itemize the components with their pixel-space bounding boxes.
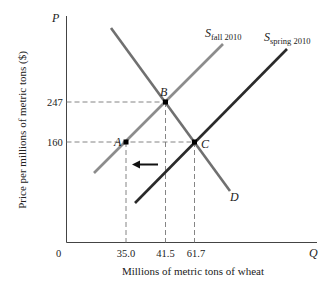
origin-label: 0 (56, 248, 61, 259)
supply-spring-2010-label-sub: spring 2010 (270, 36, 310, 46)
curves (94, 28, 287, 203)
point-b-label: B (160, 85, 168, 99)
point-a-label: A (113, 135, 122, 149)
arrow-left-icon (132, 161, 140, 169)
supply-fall-2010-label: Sfall 2010 (205, 26, 241, 42)
point-c-label: C (201, 137, 210, 151)
y-axis-symbol: P (51, 11, 60, 25)
x-tick-41-5: 41.5 (156, 248, 174, 259)
shift-arrow (132, 161, 158, 169)
x-axis-title: Millions of metric tons of wheat (122, 265, 264, 277)
point-a-marker (124, 140, 129, 145)
y-tick-160: 160 (47, 137, 63, 148)
y-axis-title: Price per millions of metric tons ($) (16, 51, 29, 209)
point-b-marker (163, 100, 168, 105)
reference-lines (67, 102, 195, 243)
supply-demand-chart: A B C D Sfall 2010 Sspring 2010 P Q 0 24… (0, 0, 336, 289)
x-axis-symbol: Q (309, 246, 318, 260)
x-tick-61-7: 61.7 (187, 248, 205, 259)
point-c-marker (192, 140, 197, 145)
x-tick-35: 35.0 (117, 248, 135, 259)
y-tick-247: 247 (47, 97, 63, 108)
demand-label: D (229, 190, 239, 204)
supply-spring-2010-curve (135, 49, 287, 203)
axes (67, 16, 318, 243)
supply-fall-2010-label-sub: fall 2010 (211, 32, 241, 42)
supply-spring-2010-label: Sspring 2010 (264, 30, 310, 46)
